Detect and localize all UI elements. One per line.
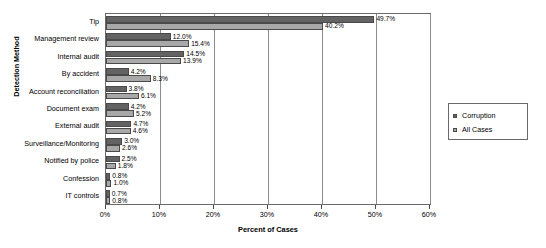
table-row: 3.0%2.6% xyxy=(106,136,430,153)
bar-all-cases xyxy=(106,110,134,117)
x-tick-mark xyxy=(159,205,160,209)
x-axis-ticks: 0%10%20%30%40%50%60% xyxy=(105,205,431,221)
gridline xyxy=(430,14,431,204)
bar-value-label: 0.8% xyxy=(112,197,127,204)
category-label: Document exam xyxy=(47,105,99,113)
bar-value-label: 2.5% xyxy=(122,155,137,162)
table-row: 0.7%0.8% xyxy=(106,189,430,206)
bar-value-label: 2.6% xyxy=(122,144,137,151)
category-label: Notified by police xyxy=(44,157,99,165)
x-tick-mark xyxy=(321,205,322,209)
bar-all-cases xyxy=(106,75,151,82)
bar-value-label: 3.0% xyxy=(124,137,139,144)
category-label: Confession xyxy=(63,175,99,183)
table-row: 4.2%5.2% xyxy=(106,101,430,118)
bar-all-cases xyxy=(106,180,111,187)
bar-value-label: 0.7% xyxy=(112,190,127,197)
bar-value-label: 1.8% xyxy=(118,162,133,169)
category-label: IT controls xyxy=(66,192,99,200)
bar-value-label: 4.6% xyxy=(133,127,148,134)
chart-legend: CorruptionAll Cases xyxy=(448,103,528,140)
category-label: Account reconciliation xyxy=(29,88,99,96)
bar-value-label: 49.7% xyxy=(376,15,395,22)
bar-value-label: 1.0% xyxy=(113,179,128,186)
bar-value-label: 4.7% xyxy=(133,120,148,127)
x-tick-label: 30% xyxy=(260,210,274,219)
bar-value-label: 13.9% xyxy=(183,57,202,64)
table-row: 4.2%8.3% xyxy=(106,66,430,83)
bar-corruption xyxy=(106,173,110,180)
bar-corruption xyxy=(106,68,129,75)
bar-all-cases xyxy=(106,23,323,30)
bar-corruption xyxy=(106,121,131,128)
bar-value-label: 15.4% xyxy=(191,40,210,47)
table-row: 14.5%13.9% xyxy=(106,49,430,66)
bar-value-label: 8.3% xyxy=(153,75,168,82)
category-label: Internal audit xyxy=(57,53,99,61)
legend-item: Corruption xyxy=(453,111,524,120)
x-axis-title: Percent of Cases xyxy=(105,225,431,234)
bar-value-label: 4.2% xyxy=(131,103,146,110)
bar-corruption xyxy=(106,86,127,93)
bar-all-cases xyxy=(106,197,110,204)
bar-value-label: 0.8% xyxy=(112,172,127,179)
bar-value-label: 6.1% xyxy=(141,92,156,99)
table-row: 0.8%1.0% xyxy=(106,171,430,188)
x-tick-label: 50% xyxy=(368,210,382,219)
x-tick-label: 0% xyxy=(100,210,110,219)
category-axis-labels: TipManagement reviewInternal auditBy acc… xyxy=(0,13,103,205)
bar-value-label: 14.5% xyxy=(186,50,205,57)
x-tick-mark xyxy=(213,205,214,209)
bar-corruption xyxy=(106,103,129,110)
x-tick-label: 40% xyxy=(314,210,328,219)
bar-value-label: 40.2% xyxy=(325,22,344,29)
category-label: Surveillance/Monitoring xyxy=(24,140,99,148)
bar-all-cases xyxy=(106,58,181,65)
bar-all-cases xyxy=(106,93,139,100)
category-label: By accident xyxy=(62,70,99,78)
bar-value-label: 12.0% xyxy=(173,33,192,40)
bar-corruption xyxy=(106,138,122,145)
bar-all-cases xyxy=(106,163,116,170)
x-tick-mark xyxy=(105,205,106,209)
legend-swatch-icon xyxy=(453,114,457,118)
legend-item: All Cases xyxy=(453,125,524,134)
x-tick-label: 10% xyxy=(152,210,166,219)
x-tick-mark xyxy=(429,205,430,209)
bar-rows: 49.7%40.2%12.0%15.4%14.5%13.9%4.2%8.3%3.… xyxy=(106,14,430,204)
bar-corruption xyxy=(106,190,110,197)
legend-label: All Cases xyxy=(462,125,492,134)
bar-value-label: 4.2% xyxy=(131,68,146,75)
bar-corruption xyxy=(106,33,171,40)
legend-label: Corruption xyxy=(462,111,496,120)
x-tick-label: 60% xyxy=(422,210,436,219)
bar-value-label: 3.8% xyxy=(129,85,144,92)
category-label: External audit xyxy=(55,122,99,130)
table-row: 4.7%4.6% xyxy=(106,119,430,136)
bar-corruption xyxy=(106,51,184,58)
bar-chart: Detection Method TipManagement reviewInt… xyxy=(0,0,546,248)
bar-value-label: 5.2% xyxy=(136,110,151,117)
table-row: 2.5%1.8% xyxy=(106,154,430,171)
bar-all-cases xyxy=(106,40,189,47)
category-label: Tip xyxy=(89,18,99,26)
x-tick-mark xyxy=(267,205,268,209)
x-tick-mark xyxy=(375,205,376,209)
legend-swatch-icon xyxy=(453,128,457,132)
table-row: 49.7%40.2% xyxy=(106,14,430,31)
category-label: Management review xyxy=(34,35,99,43)
x-tick-label: 20% xyxy=(206,210,220,219)
bar-all-cases xyxy=(106,128,131,135)
bar-all-cases xyxy=(106,145,120,152)
table-row: 3.8%6.1% xyxy=(106,84,430,101)
plot-area: 49.7%40.2%12.0%15.4%14.5%13.9%4.2%8.3%3.… xyxy=(105,13,431,205)
table-row: 12.0%15.4% xyxy=(106,31,430,48)
